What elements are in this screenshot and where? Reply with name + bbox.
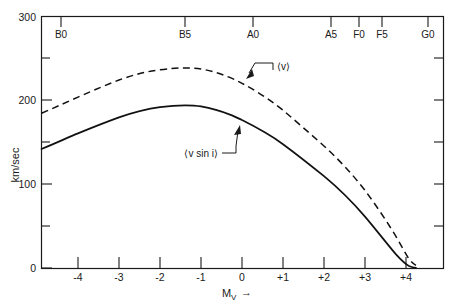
y-tick-label-200: 200 bbox=[18, 94, 36, 106]
x-tick-label-minus3: -3 bbox=[114, 271, 123, 283]
chart-background bbox=[0, 0, 460, 302]
x-tick-label-plus3: +3 bbox=[359, 271, 371, 283]
x-tick-label-minus2: -2 bbox=[155, 271, 164, 283]
x-axis-arrow-icon: → bbox=[241, 286, 252, 298]
x-tick-label-plus1: +1 bbox=[277, 271, 289, 283]
x-tick-label-0: 0 bbox=[239, 271, 245, 283]
spectral-tick-label-f5: F5 bbox=[376, 29, 388, 40]
x-tick-label-minus4: -4 bbox=[73, 271, 82, 283]
mean-v-annotation-label: ⟨v⟩ bbox=[277, 61, 290, 72]
x-tick-label-plus4: +4 bbox=[400, 271, 412, 283]
spectral-tick-label-g0: G0 bbox=[421, 29, 435, 40]
mean-v-sin-i-annotation-label: ⟨v sin i⟩ bbox=[184, 148, 218, 159]
spectral-tick-label-b5: B5 bbox=[179, 29, 192, 40]
y-tick-label-300: 300 bbox=[18, 11, 36, 23]
x-tick-label-plus2: +2 bbox=[318, 271, 330, 283]
spectral-tick-label-a0: A0 bbox=[247, 29, 260, 40]
spectral-tick-label-b0: B0 bbox=[55, 29, 68, 40]
spectral-tick-label-a5: A5 bbox=[325, 29, 338, 40]
rotational-velocity-chart: B0 B5 A0 A5 F0 F5 G0 300 200 100 0 km/se… bbox=[0, 0, 460, 302]
spectral-tick-label-f0: F0 bbox=[353, 29, 365, 40]
x-axis-title-subscript: V bbox=[231, 293, 237, 302]
y-tick-label-100: 100 bbox=[18, 178, 36, 190]
y-axis-title: km/sec bbox=[9, 147, 21, 182]
x-tick-label-minus1: -1 bbox=[196, 271, 205, 283]
x-axis-title-main: M bbox=[222, 287, 231, 299]
y-tick-label-0: 0 bbox=[30, 262, 36, 274]
